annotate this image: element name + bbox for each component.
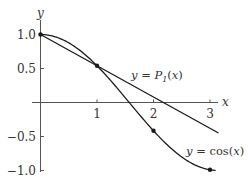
data-point [38, 32, 42, 36]
data-point [208, 168, 212, 172]
data-point [151, 129, 155, 133]
p1-line [41, 35, 219, 133]
y-tick-label: −1.0 [7, 164, 36, 178]
y-axis-label: y [36, 6, 44, 20]
x-tick-label: 1 [93, 107, 101, 121]
y-tick-label: 0.5 [17, 62, 36, 76]
y-tick-label: −0.5 [7, 130, 36, 144]
x-axis-label: x [222, 95, 229, 109]
cos-label: y = cos(x) [185, 144, 244, 158]
chart: 123 1.00.5−0.5−1.0 y x y = P1(x) y = cos… [0, 0, 248, 185]
y-tick-label: 1.0 [17, 28, 36, 42]
data-point [95, 64, 99, 68]
x-tick-label: 3 [206, 107, 214, 121]
x-tick-label: 2 [150, 107, 158, 121]
p1-label: y = P1(x) [130, 68, 183, 84]
